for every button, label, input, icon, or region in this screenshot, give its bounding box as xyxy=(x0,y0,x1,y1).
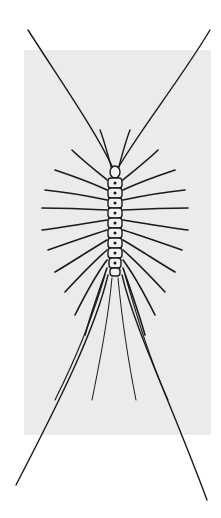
right-legs xyxy=(123,150,188,335)
centipede-illustration xyxy=(0,0,221,518)
right-antenna xyxy=(118,30,210,168)
left-antenna xyxy=(28,30,113,168)
left-legs xyxy=(42,150,107,335)
